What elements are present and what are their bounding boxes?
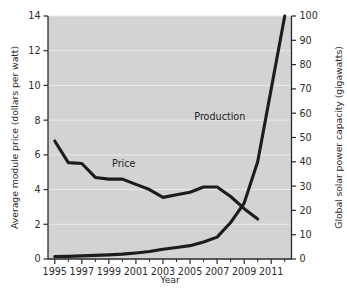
- x-axis-tick-label: 1997: [70, 266, 94, 277]
- right-axis-tick-label: 10: [300, 229, 312, 240]
- x-axis-tick-label: 2003: [151, 266, 175, 277]
- left-axis-tick-label: 8: [34, 115, 40, 126]
- right-axis-tick-label: 80: [300, 59, 312, 70]
- x-axis-tick-label: 2007: [205, 266, 229, 277]
- right-axis-tick-label: 30: [300, 181, 312, 192]
- left-axis-tick-label: 4: [34, 184, 40, 195]
- x-axis-tick-label: 2011: [259, 266, 283, 277]
- series-annotation-production: Production: [194, 111, 245, 122]
- right-axis-tick-label: 100: [300, 10, 318, 21]
- plot-background: [48, 16, 292, 259]
- x-axis-tick-label: 2001: [124, 266, 148, 277]
- right-axis-tick-label: 40: [300, 156, 312, 167]
- right-axis-tick-label: 0: [300, 253, 306, 264]
- left-axis-tick-label: 6: [34, 149, 40, 160]
- chart-plot-area: 0246810121401020304050607080901001995199…: [0, 0, 347, 295]
- right-axis-tick-label: 60: [300, 108, 312, 119]
- left-axis-tick-label: 14: [28, 10, 40, 21]
- right-axis-tick-label: 20: [300, 205, 312, 216]
- x-axis-tick-label: 2009: [232, 266, 256, 277]
- left-axis-tick-label: 0: [34, 253, 40, 264]
- left-axis-tick-label: 2: [34, 219, 40, 230]
- right-axis-tick-label: 50: [300, 132, 312, 143]
- x-axis-tick-label: 1999: [97, 266, 121, 277]
- solar-price-production-chart: Average module price (dollars per watt) …: [0, 0, 347, 295]
- x-axis-tick-label: 2005: [178, 266, 202, 277]
- x-axis-tick-label: 1995: [43, 266, 67, 277]
- left-axis-tick-label: 12: [28, 45, 40, 56]
- right-axis-tick-label: 70: [300, 83, 312, 94]
- series-annotation-price: Price: [112, 158, 136, 169]
- left-axis-tick-label: 10: [28, 80, 40, 91]
- right-axis-tick-label: 90: [300, 35, 312, 46]
